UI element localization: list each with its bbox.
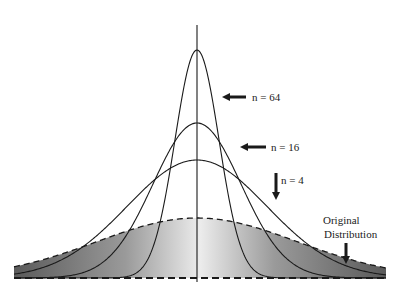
sampling-distribution-chart: n = 64 n = 16 n = 4 Original Distributio… <box>0 0 399 295</box>
label-distribution: Distribution <box>324 228 378 240</box>
label-n64: n = 64 <box>252 91 281 103</box>
arrow-left-icon <box>222 93 246 101</box>
annotation-n16: n = 16 <box>240 141 300 153</box>
annotation-n64: n = 64 <box>222 91 281 103</box>
label-n4: n = 4 <box>281 174 304 186</box>
label-original: Original <box>323 214 360 226</box>
chart-canvas: n = 64 n = 16 n = 4 Original Distributio… <box>0 0 399 295</box>
annotation-n4: n = 4 <box>272 173 304 200</box>
arrow-down-icon <box>272 173 280 200</box>
original-distribution-fill <box>14 218 386 278</box>
label-n16: n = 16 <box>271 141 300 153</box>
arrow-left-icon <box>240 143 266 151</box>
